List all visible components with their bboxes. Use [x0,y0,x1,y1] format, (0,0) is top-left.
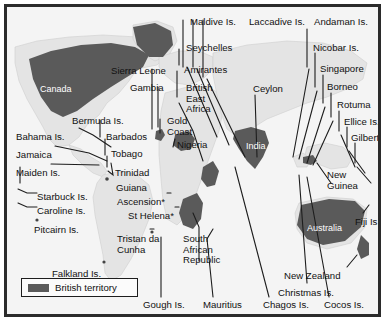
label-sierra-leone: Sierra Leone [111,66,166,77]
label-maldive-is: Maldive Is. [190,17,236,28]
label-singapore: Singapore [320,64,364,75]
label-gambia: Gambia [130,83,164,94]
label-rotuma: Rotuma [337,100,371,111]
map-frame: Canada India Australia Maldive Is. Lacca… [4,4,381,317]
legend-label: British territory [55,282,117,293]
british-empire-map-figure: Canada India Australia Maldive Is. Lacca… [0,0,385,321]
dot-guiana [105,177,109,181]
label-new-guinea: New Guinea [327,170,358,191]
label-tristan-da-cunha: Tristan da Cunha [117,234,159,255]
label-chagos-is: Chagos Is. [263,300,309,311]
label-cocos-is: Cocos Is. [324,300,364,311]
legend-swatch-british-territory [28,284,49,292]
label-south-african-republic: South African Republic [183,234,220,266]
label-borneo: Borneo [327,82,358,93]
label-seychelles: Seychelles [186,43,232,54]
label-fiji-is: Fiji Is. [355,217,380,228]
label-barbados: Barbados [106,132,147,143]
territory-label-australia: Australia [307,223,342,233]
territory-label-india: India [246,141,266,151]
label-guiana: Guiana [116,183,147,194]
label-ascension: Ascension* [117,197,165,208]
label-british-east-africa: British East Africa [186,83,213,115]
dot-falkland [102,260,105,263]
label-st-helena: St Helena* [128,211,174,222]
label-mauritius: Mauritius [203,300,242,311]
label-bahama-is: Bahama Is. [16,132,65,143]
territory-label-canada: Canada [40,84,72,94]
label-trinidad: Trinidad [115,168,149,179]
label-ellice-is: Ellice Is. [344,117,380,128]
label-nicobar-is: Nicobar Is. [313,43,359,54]
label-andaman-is: Andaman Is. [314,17,368,28]
label-gold-coast: Gold Coast [167,116,192,137]
label-caroline-is: Caroline Is. [37,206,86,217]
dot-pitcairn [35,218,38,221]
label-maiden-is: Maiden Is. [16,168,60,179]
label-gilbert-is: Gilbert Is. [351,133,381,144]
label-christmas-is: Christmas Is. [278,288,334,299]
map-legend: British territory [21,278,138,297]
label-pitcairn-is: Pitcairn Is. [34,225,79,236]
label-ceylon: Ceylon [253,84,283,95]
label-tobago: Tobago [111,149,142,160]
label-jamaica: Jamaica [16,150,52,161]
label-amirantes: Amirantes [184,65,227,76]
label-laccadive-is: Laccadive Is. [249,17,305,28]
label-nigeria: Nigeria [177,140,207,151]
label-bermuda-is: Bermuda Is. [72,116,124,127]
label-goughs-is: Gough Is. [143,300,185,311]
label-starbuck-is: Starbuck Is. [37,192,88,203]
label-new-zealand: New Zealand [284,271,341,282]
